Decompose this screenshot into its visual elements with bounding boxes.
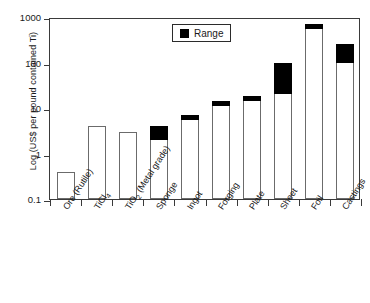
x-tick-mark [81,199,82,206]
x-tick-mark [268,199,269,206]
y-tick-mark [44,110,50,111]
range-marker [212,101,230,106]
y-tick-label: 0.1 [28,194,41,205]
x-tick-mark [112,199,113,206]
range-marker [336,44,354,62]
y-axis-title: Log (US$ per pound contained Ti) [28,6,38,196]
x-tick-mark [299,199,300,206]
y-tick-label: 1000 [20,12,41,23]
bar-ingot [181,115,199,199]
y-tick-mark [44,65,50,66]
x-tick-mark [50,199,51,206]
plot-area: 0.11101001000 [49,18,360,200]
y-tick-label: 100 [25,58,41,69]
y-tick-label: 10 [30,103,41,114]
bar-ticl4 [88,126,106,199]
chart-legend: Range [172,24,231,42]
bar-castings [336,44,354,199]
x-tick-mark [361,199,362,206]
chart-figure: Log (US$ per pound contained Ti) 0.11101… [0,0,370,303]
x-tick-mark [330,199,331,206]
x-tick-mark [237,199,238,206]
range-marker [305,24,323,29]
x-tick-mark [206,199,207,206]
range-marker [150,126,168,140]
x-tick-mark [174,199,175,206]
y-tick-mark [44,156,50,157]
y-tick-label: 1 [36,149,41,160]
bar-foil [305,24,323,199]
range-marker [243,96,261,101]
range-marker [274,63,292,95]
legend-range-swatch-icon [180,29,189,38]
bar-plate [243,96,261,199]
legend-range-label: Range [194,28,223,39]
bar-forging [212,101,230,199]
y-tick-mark [44,19,50,20]
bar-sheet [274,63,292,200]
x-tick-mark [143,199,144,206]
range-marker [181,115,199,120]
